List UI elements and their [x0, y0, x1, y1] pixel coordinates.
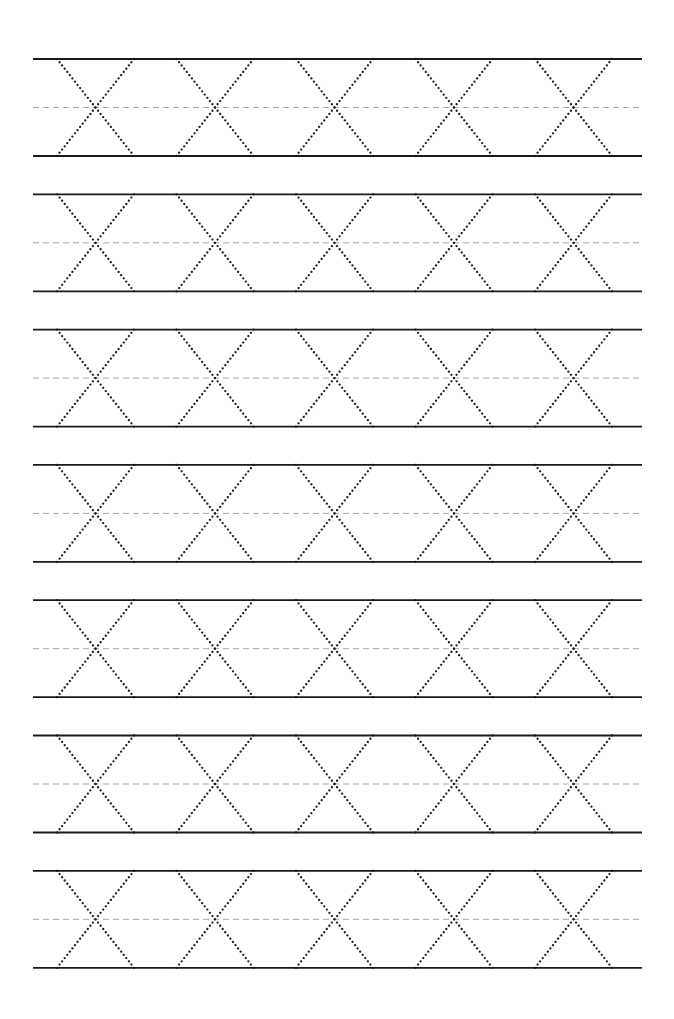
tracing-row — [33, 870, 642, 969]
tracing-worksheet: Letter X tracing practice — [0, 0, 674, 1019]
tracing-row — [33, 58, 642, 157]
tracing-row — [33, 328, 642, 427]
tracing-row — [33, 464, 642, 563]
worksheet-canvas — [0, 0, 674, 1019]
tracing-row — [33, 734, 642, 833]
tracing-row — [33, 193, 642, 292]
tracing-row — [33, 599, 642, 698]
